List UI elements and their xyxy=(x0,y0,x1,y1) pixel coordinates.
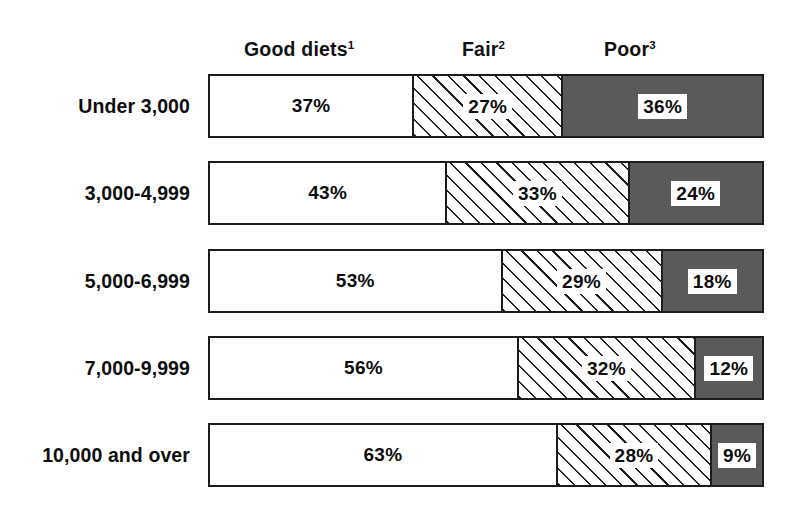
segment-value: 9% xyxy=(718,443,756,468)
segment-value: 18% xyxy=(688,269,737,294)
segment-value: 63% xyxy=(363,444,402,466)
legend-label-poor: Poor xyxy=(604,38,649,60)
chart-row: Under 3,000 37% 27% 36% xyxy=(0,74,805,138)
legend-footnote-fair: 2 xyxy=(499,39,506,51)
row-label: 5,000-6,999 xyxy=(0,249,190,313)
legend-item-fair: Fair2 xyxy=(462,36,505,62)
chart-row: 7,000-9,999 56% 32% 12% xyxy=(0,336,805,400)
row-label: 10,000 and over xyxy=(0,423,190,487)
segment-value: 24% xyxy=(671,181,720,206)
legend-footnote-poor: 3 xyxy=(649,39,656,51)
segment-value: 32% xyxy=(582,356,631,381)
segment-good-diets: 43% xyxy=(210,163,447,223)
legend-label-fair: Fair xyxy=(462,38,499,60)
legend-footnote-good-diets: 1 xyxy=(348,39,355,51)
segment-poor: 9% xyxy=(712,425,762,485)
segment-value: 28% xyxy=(610,443,659,468)
stacked-bar: 43% 33% 24% xyxy=(208,161,764,225)
segment-value: 36% xyxy=(638,94,687,119)
row-label: Under 3,000 xyxy=(0,74,190,138)
segment-good-diets: 37% xyxy=(210,76,414,136)
segment-fair: 29% xyxy=(503,251,663,311)
segment-value: 43% xyxy=(308,182,347,204)
legend-label-good-diets: Good diets xyxy=(244,38,348,60)
stacked-bar-chart: Good diets1 Fair2 Poor3 Under 3,000 37% … xyxy=(0,0,805,511)
segment-value: 56% xyxy=(344,357,383,379)
segment-good-diets: 56% xyxy=(210,338,519,398)
stacked-bar: 63% 28% 9% xyxy=(208,423,764,487)
segment-good-diets: 63% xyxy=(210,425,558,485)
segment-poor: 12% xyxy=(696,338,762,398)
stacked-bar: 53% 29% 18% xyxy=(208,249,764,313)
segment-poor: 36% xyxy=(563,76,762,136)
segment-good-diets: 53% xyxy=(210,251,503,311)
row-label: 7,000-9,999 xyxy=(0,336,190,400)
segment-poor: 24% xyxy=(630,163,762,223)
segment-fair: 32% xyxy=(519,338,696,398)
stacked-bar: 56% 32% 12% xyxy=(208,336,764,400)
segment-fair: 28% xyxy=(558,425,713,485)
legend-item-good-diets: Good diets1 xyxy=(244,36,354,62)
segment-value: 33% xyxy=(513,181,562,206)
row-label: 3,000-4,999 xyxy=(0,161,190,225)
segment-poor: 18% xyxy=(663,251,762,311)
chart-row: 5,000-6,999 53% 29% 18% xyxy=(0,249,805,313)
segment-fair: 33% xyxy=(447,163,629,223)
stacked-bar: 37% 27% 36% xyxy=(208,74,764,138)
legend-item-poor: Poor3 xyxy=(604,36,656,62)
chart-legend: Good diets1 Fair2 Poor3 xyxy=(208,36,764,66)
segment-value: 37% xyxy=(292,95,331,117)
segment-value: 27% xyxy=(463,94,512,119)
segment-value: 53% xyxy=(336,270,375,292)
segment-value: 29% xyxy=(557,269,606,294)
segment-value: 12% xyxy=(704,356,753,381)
chart-row: 3,000-4,999 43% 33% 24% xyxy=(0,161,805,225)
chart-row: 10,000 and over 63% 28% 9% xyxy=(0,423,805,487)
segment-fair: 27% xyxy=(414,76,563,136)
